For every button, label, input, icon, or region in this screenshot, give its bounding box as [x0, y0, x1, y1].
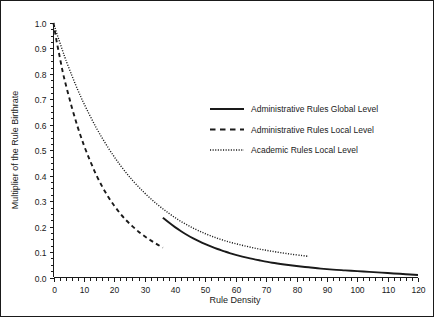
x-tick-label: 0 [52, 285, 57, 295]
series-line-dotted [54, 23, 309, 256]
x-axis-title: Rule Density [209, 295, 261, 305]
x-tick-label: 20 [110, 285, 120, 295]
x-tick-label: 70 [262, 285, 272, 295]
y-tick-label: 0.7 [35, 95, 47, 105]
x-tick-label: 30 [141, 285, 151, 295]
x-tick-label: 80 [293, 285, 303, 295]
series-line-solid [163, 218, 418, 275]
y-axis-tick-labels: 0.00.10.20.30.40.50.60.70.80.91.0 [35, 19, 47, 284]
x-axis-tick-labels: 0102030405060708090100110120 [52, 285, 426, 295]
y-tick-label: 0.4 [35, 172, 47, 182]
y-axis-title: Multiplier of the Rule Birthrate [10, 91, 20, 210]
y-tick-label: 0.3 [35, 197, 47, 207]
y-tick-label: 0.5 [35, 146, 47, 156]
x-tick-label: 90 [323, 285, 333, 295]
x-tick-label: 40 [171, 285, 181, 295]
y-tick-label: 0.6 [35, 121, 47, 131]
legend-label: Academic Rules Local Level [251, 145, 358, 155]
y-tick-label: 0.2 [35, 223, 47, 233]
x-tick-label: 100 [350, 285, 364, 295]
legend-label: Administrative Rules Local Level [251, 125, 374, 135]
x-tick-label: 50 [201, 285, 211, 295]
y-tick-label: 0.9 [35, 44, 47, 54]
legend-label: Administrative Rules Global Level [251, 104, 378, 114]
y-tick-label: 0.8 [35, 70, 47, 80]
x-tick-label: 120 [411, 285, 425, 295]
chart-figure: 0.00.10.20.30.40.50.60.70.80.91.0 010203… [0, 0, 434, 317]
x-tick-label: 110 [382, 285, 396, 295]
data-series-group [54, 23, 419, 275]
series-line-dashed [54, 23, 163, 248]
x-tick-label: 10 [80, 285, 90, 295]
chart-canvas: 0.00.10.20.30.40.50.60.70.80.91.0 010203… [1, 1, 434, 317]
y-tick-label: 1.0 [35, 19, 47, 29]
chart-legend: Administrative Rules Global LevelAdminis… [210, 104, 378, 155]
y-tick-label: 0.1 [35, 248, 47, 258]
x-tick-label: 60 [232, 285, 242, 295]
y-tick-label: 0.0 [35, 274, 47, 284]
